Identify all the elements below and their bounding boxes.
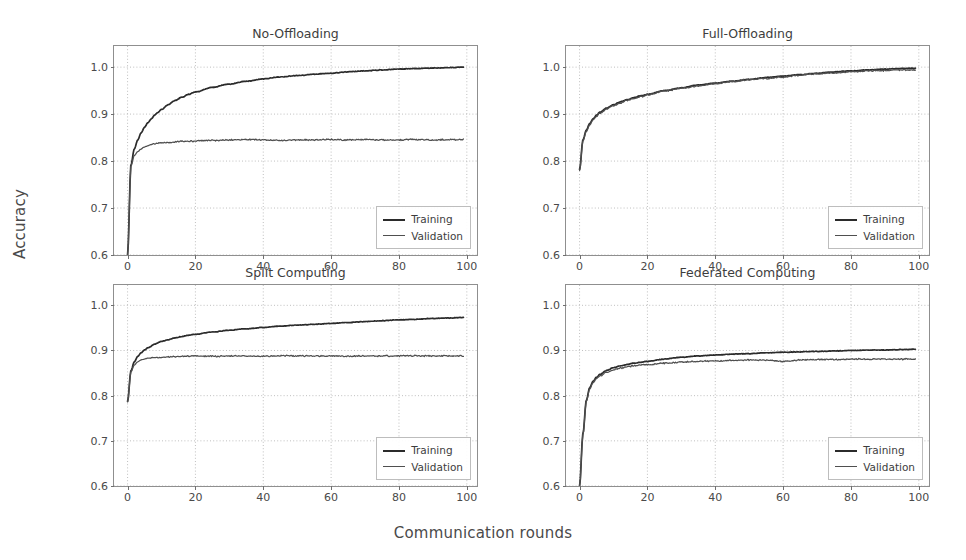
x-tick-mark: [715, 486, 716, 490]
y-tick-mark: [563, 350, 567, 351]
y-tick-label: 0.6: [543, 480, 561, 493]
x-tick-mark: [783, 255, 784, 259]
y-tick-mark: [563, 161, 567, 162]
legend[interactable]: TrainingValidation: [376, 437, 471, 480]
subplot-split-computing: Split Computing 0.60.70.80.91.0020406080…: [113, 265, 478, 487]
x-tick-label: 40: [708, 491, 722, 504]
figure-canvas: Accuracy Communication rounds No-Offload…: [0, 0, 966, 560]
y-tick-mark: [563, 486, 567, 487]
axes-split-computing: 0.60.70.80.91.0020406080100TrainingValid…: [113, 284, 478, 487]
y-tick-mark: [563, 441, 567, 442]
x-tick-mark: [715, 255, 716, 259]
y-tick-mark: [111, 350, 115, 351]
y-tick-mark: [111, 441, 115, 442]
y-tick-mark: [563, 67, 567, 68]
figure-ylabel: Accuracy: [11, 154, 29, 294]
x-tick-label: 80: [392, 491, 406, 504]
x-tick-mark: [851, 255, 852, 259]
y-tick-label: 0.6: [543, 249, 561, 262]
legend-line-swatch-icon: [383, 235, 405, 236]
y-tick-mark: [111, 208, 115, 209]
y-tick-label: 0.8: [91, 155, 109, 168]
axes-no-offloading: 0.60.70.80.91.0020406080100TrainingValid…: [113, 45, 478, 256]
legend-label: Training: [863, 442, 904, 458]
legend-item-training[interactable]: Training: [835, 211, 915, 227]
x-tick-mark: [580, 255, 581, 259]
series-line-validation: [580, 70, 916, 171]
legend-label: Training: [411, 442, 452, 458]
legend-line-swatch-icon: [383, 466, 405, 467]
legend-item-validation[interactable]: Validation: [835, 459, 915, 475]
x-tick-mark: [851, 486, 852, 490]
legend[interactable]: TrainingValidation: [828, 437, 923, 480]
x-tick-mark: [919, 486, 920, 490]
subplot-no-offloading: No-Offloading 0.60.70.80.91.002040608010…: [113, 26, 478, 256]
x-tick-label: 60: [324, 491, 338, 504]
legend[interactable]: TrainingValidation: [828, 206, 923, 249]
y-tick-label: 0.9: [91, 344, 109, 357]
y-tick-mark: [563, 208, 567, 209]
x-tick-mark: [195, 255, 196, 259]
subplot-title-no-offloading: No-Offloading: [113, 26, 478, 41]
subplot-title-split-computing: Split Computing: [113, 265, 478, 280]
figure-xlabel: Communication rounds: [0, 524, 966, 542]
series-line-validation: [128, 355, 464, 401]
legend-item-training[interactable]: Training: [383, 211, 463, 227]
x-tick-mark: [128, 486, 129, 490]
legend-line-swatch-icon: [383, 219, 405, 221]
legend[interactable]: TrainingValidation: [376, 206, 471, 249]
y-tick-mark: [111, 67, 115, 68]
legend-label: Training: [411, 211, 452, 227]
legend-item-validation[interactable]: Validation: [383, 228, 463, 244]
x-tick-label: 60: [776, 491, 790, 504]
y-tick-label: 1.0: [91, 299, 109, 312]
x-tick-mark: [263, 255, 264, 259]
legend-label: Training: [863, 211, 904, 227]
y-tick-label: 0.9: [91, 108, 109, 121]
x-tick-mark: [399, 486, 400, 490]
y-tick-mark: [111, 486, 115, 487]
y-tick-mark: [111, 255, 115, 256]
legend-item-training[interactable]: Training: [383, 442, 463, 458]
x-tick-mark: [195, 486, 196, 490]
legend-item-validation[interactable]: Validation: [383, 459, 463, 475]
legend-line-swatch-icon: [383, 450, 405, 452]
y-tick-label: 0.6: [91, 249, 109, 262]
legend-label: Validation: [863, 228, 915, 244]
legend-item-validation[interactable]: Validation: [835, 228, 915, 244]
y-tick-label: 1.0: [543, 299, 561, 312]
y-tick-label: 0.8: [91, 389, 109, 402]
y-tick-label: 0.8: [543, 155, 561, 168]
x-tick-mark: [467, 255, 468, 259]
x-tick-mark: [783, 486, 784, 490]
y-tick-label: 1.0: [543, 61, 561, 74]
y-tick-label: 0.7: [543, 434, 561, 447]
y-tick-mark: [111, 396, 115, 397]
x-tick-mark: [580, 486, 581, 490]
y-tick-mark: [563, 114, 567, 115]
y-tick-mark: [111, 114, 115, 115]
x-tick-mark: [467, 486, 468, 490]
subplot-federated-computing: Federated Computing 0.60.70.80.91.002040…: [565, 265, 930, 487]
x-tick-mark: [647, 486, 648, 490]
x-tick-mark: [399, 255, 400, 259]
legend-item-training[interactable]: Training: [835, 442, 915, 458]
legend-label: Validation: [411, 228, 463, 244]
x-tick-label: 20: [640, 491, 654, 504]
y-tick-label: 0.7: [91, 434, 109, 447]
subplot-full-offloading: Full-Offloading 0.60.70.80.91.0020406080…: [565, 26, 930, 256]
y-tick-mark: [111, 161, 115, 162]
x-tick-mark: [263, 486, 264, 490]
y-tick-label: 0.7: [91, 202, 109, 215]
x-tick-mark: [331, 486, 332, 490]
y-tick-label: 0.7: [543, 202, 561, 215]
axes-federated-computing: 0.60.70.80.91.0020406080100TrainingValid…: [565, 284, 930, 487]
x-tick-mark: [128, 255, 129, 259]
subplot-title-federated-computing: Federated Computing: [565, 265, 930, 280]
y-tick-mark: [563, 305, 567, 306]
y-tick-label: 0.8: [543, 389, 561, 402]
y-tick-mark: [111, 305, 115, 306]
subplot-title-full-offloading: Full-Offloading: [565, 26, 930, 41]
legend-line-swatch-icon: [835, 219, 857, 221]
x-tick-label: 20: [188, 491, 202, 504]
